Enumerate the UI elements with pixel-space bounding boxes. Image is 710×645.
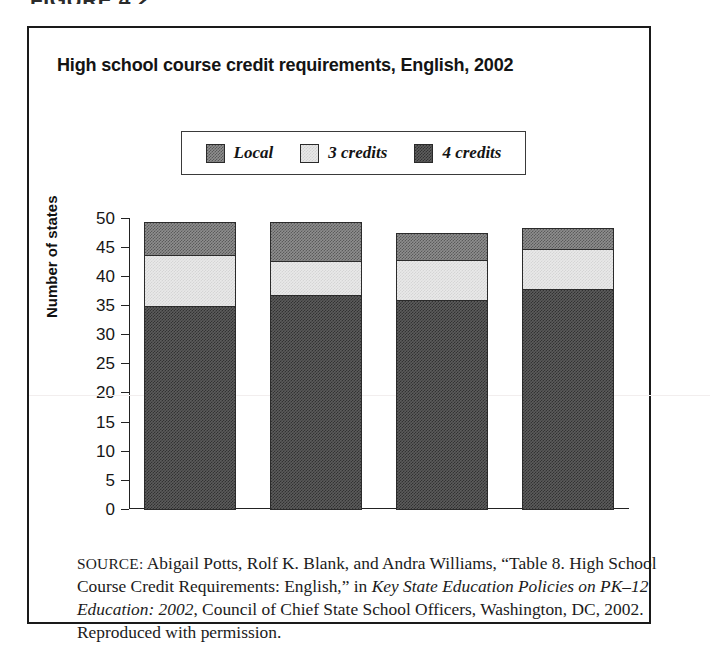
- bar-4[interactable]: [522, 228, 614, 509]
- y-tick-30: 30: [96, 326, 115, 343]
- y-tick-40: 40: [96, 268, 115, 285]
- bar-1-segment-local[interactable]: [144, 222, 236, 257]
- y-tick-25: 25: [96, 355, 115, 372]
- bar-4-segment-four-credits[interactable]: [522, 289, 614, 510]
- bar-1[interactable]: [144, 222, 236, 509]
- y-tickmark-0: [121, 509, 129, 510]
- y-axis-title: Number of states: [43, 195, 60, 318]
- y-tick-50: 50: [96, 210, 115, 227]
- bar-2[interactable]: [270, 222, 362, 509]
- bar-2-segment-three-credits[interactable]: [270, 261, 362, 296]
- y-tick-20: 20: [96, 384, 115, 401]
- bar-1-segment-three-credits[interactable]: [144, 255, 236, 307]
- source-prefix: SOURCE:: [77, 555, 143, 572]
- figure-caption: FIGURE 4.2: [30, 0, 149, 4]
- y-tick-5: 5: [106, 472, 115, 489]
- bar-2-segment-four-credits[interactable]: [270, 295, 362, 510]
- y-axis-ticklabels: 50 45 40 35 30 25 20 15 10 5 0: [73, 218, 115, 508]
- bar-3[interactable]: [396, 233, 488, 509]
- y-tick-0: 0: [106, 501, 115, 518]
- bar-3-segment-local[interactable]: [396, 233, 488, 262]
- y-tick-15: 15: [96, 414, 115, 431]
- bar-3-segment-four-credits[interactable]: [396, 300, 488, 510]
- bar-2-segment-local[interactable]: [270, 222, 362, 263]
- y-tick-10: 10: [96, 443, 115, 460]
- bar-4-segment-local[interactable]: [522, 228, 614, 251]
- figure-box: High school course credit requirements, …: [27, 26, 651, 624]
- plot-area: Number of states 50 45 40 35 30 25 20 15…: [29, 28, 649, 622]
- source-note: SOURCE: Abigail Potts, Rolf K. Blank, an…: [77, 552, 660, 645]
- y-tick-45: 45: [96, 239, 115, 256]
- bar-1-segment-four-credits[interactable]: [144, 306, 236, 510]
- bar-3-segment-three-credits[interactable]: [396, 260, 488, 301]
- y-tick-35: 35: [96, 297, 115, 314]
- bar-group: [130, 218, 628, 509]
- bar-4-segment-three-credits[interactable]: [522, 249, 614, 290]
